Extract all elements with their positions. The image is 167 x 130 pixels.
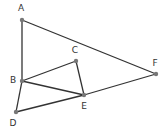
segment-EF <box>84 74 156 95</box>
point-label-D: D <box>10 118 17 128</box>
geometry-diagram: ABCDEF <box>0 0 167 130</box>
point-A <box>20 18 24 22</box>
segment-AF <box>22 20 156 74</box>
segment-DE <box>16 95 84 112</box>
point-label-A: A <box>18 3 25 13</box>
point-F <box>154 72 158 76</box>
point-C <box>74 59 78 63</box>
point-label-B: B <box>10 75 16 85</box>
segment-BE <box>22 81 84 95</box>
segments-group <box>16 20 156 112</box>
diagram-canvas: ABCDEF <box>0 0 167 130</box>
segment-BC <box>22 61 76 81</box>
point-label-F: F <box>152 58 157 68</box>
point-E <box>82 93 86 97</box>
point-label-C: C <box>72 45 78 55</box>
segment-CE <box>76 61 84 95</box>
segment-BD <box>16 81 22 112</box>
point-D <box>14 110 18 114</box>
point-B <box>20 79 24 83</box>
point-label-E: E <box>81 101 87 111</box>
